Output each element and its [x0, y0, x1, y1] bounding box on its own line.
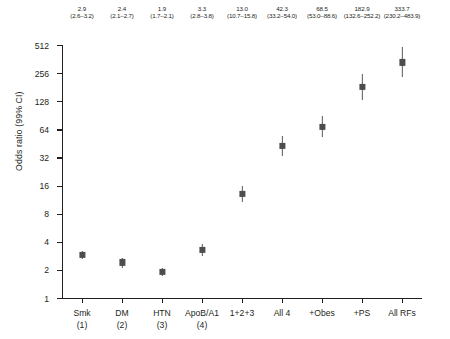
- x-axis-tick-label: 1+2+3: [230, 307, 254, 319]
- y-axis-tick: 4: [57, 242, 62, 243]
- point-annotation: 42.3(33.2–54.0): [267, 6, 297, 20]
- point-annotation-ci: (33.2–54.0): [267, 13, 297, 20]
- x-axis-tick: [202, 298, 203, 303]
- point-annotation-ci: (230.2–483.9): [384, 13, 421, 20]
- point-annotation-ci: (2.6–3.2): [70, 13, 93, 20]
- y-axis-tick: 32: [57, 157, 62, 158]
- point-annotation: 68.5(53.0–88.6): [307, 6, 337, 20]
- data-point[interactable]: [162, 45, 163, 298]
- x-axis-tick-label: All 4: [274, 307, 291, 319]
- data-point[interactable]: [82, 45, 83, 298]
- point-annotation: 3.3(2.8–3.8): [190, 6, 213, 20]
- data-point-marker[interactable]: [399, 59, 405, 65]
- x-axis-tick: [82, 298, 83, 303]
- point-annotation: 13.0(10.7–15.8): [227, 6, 257, 20]
- x-axis-tick: [242, 298, 243, 303]
- y-axis-tick: 1: [57, 298, 62, 299]
- point-annotation-ci: (10.7–15.8): [227, 13, 257, 20]
- point-annotation: 182.9(132.6–252.2): [344, 6, 381, 20]
- data-point[interactable]: [242, 45, 243, 298]
- point-annotation: 2.9(2.6–3.2): [70, 6, 93, 20]
- data-point[interactable]: [402, 45, 403, 298]
- data-point-marker[interactable]: [319, 123, 325, 129]
- y-axis-tick-label: 256: [35, 69, 49, 79]
- data-point-marker[interactable]: [159, 269, 165, 275]
- x-axis-tick-label: All RFs: [388, 307, 416, 319]
- x-axis-tick-label-primary: Smk: [73, 308, 90, 318]
- point-annotation: 2.4(2.1–2.7): [110, 6, 133, 20]
- y-axis-tick: 16: [57, 186, 62, 187]
- x-axis-tick-label: +PS: [354, 307, 370, 319]
- y-axis-tick-label: 16: [39, 181, 49, 191]
- data-point[interactable]: [202, 45, 203, 298]
- point-value-annotations: 2.9(2.6–3.2)2.4(2.1–2.7)1.9(1.7–2.1)3.3(…: [0, 0, 450, 34]
- x-axis-tick-label-primary: ApoB/A1: [185, 308, 219, 318]
- y-axis-tick: 2: [57, 270, 62, 271]
- y-axis-tick-label: 128: [35, 97, 49, 107]
- y-axis-tick: 512: [57, 45, 62, 46]
- x-axis-tick-label-index: (3): [153, 319, 171, 331]
- y-axis-tick: 256: [57, 73, 62, 74]
- x-axis-tick-label-primary: All 4: [274, 308, 291, 318]
- x-axis-tick-label-primary: +Obes: [309, 308, 335, 318]
- x-axis-tick: [402, 298, 403, 303]
- point-annotation-ci: (53.0–88.6): [307, 13, 337, 20]
- x-axis-tick: [122, 298, 123, 303]
- point-annotation: 333.7(230.2–483.9): [384, 6, 421, 20]
- point-annotation-ci: (2.1–2.7): [110, 13, 133, 20]
- data-point-marker[interactable]: [359, 84, 365, 90]
- data-point[interactable]: [362, 45, 363, 298]
- x-axis-tick-label: +Obes: [309, 307, 335, 319]
- x-axis-tick: [362, 298, 363, 303]
- x-axis-tick-label-primary: 1+2+3: [230, 308, 254, 318]
- x-axis-tick-label-primary: DM: [115, 308, 128, 318]
- x-axis-tick: [282, 298, 283, 303]
- x-axis-tick-label: DM(2): [115, 307, 128, 332]
- x-axis-tick-label: ApoB/A1(4): [185, 307, 219, 332]
- x-axis-tick-label-index: (1): [73, 319, 90, 331]
- y-axis-title: Odds ratio (99% CI): [14, 91, 24, 171]
- y-axis-tick-label: 1: [44, 294, 49, 304]
- point-annotation-ci: (132.6–252.2): [344, 13, 381, 20]
- x-axis-tick-label: Smk(1): [73, 307, 90, 332]
- y-axis-tick-label: 2: [44, 265, 49, 275]
- odds-ratio-figure: 2.9(2.6–3.2)2.4(2.1–2.7)1.9(1.7–2.1)3.3(…: [0, 0, 450, 339]
- x-axis-tick-label-index: (4): [185, 319, 219, 331]
- point-annotation-ci: (2.8–3.8): [190, 13, 213, 20]
- data-point-marker[interactable]: [279, 143, 285, 149]
- y-axis-tick-label: 512: [35, 41, 49, 51]
- data-point[interactable]: [282, 45, 283, 298]
- data-point-marker[interactable]: [119, 259, 125, 265]
- x-axis-tick-label-primary: All RFs: [388, 308, 416, 318]
- y-axis-tick: 8: [57, 214, 62, 215]
- y-axis-tick-label: 4: [44, 237, 49, 247]
- data-point-marker[interactable]: [199, 246, 205, 252]
- x-axis-tick-label: HTN(3): [153, 307, 171, 332]
- x-axis-tick: [162, 298, 163, 303]
- data-point[interactable]: [322, 45, 323, 298]
- x-axis-tick: [322, 298, 323, 303]
- y-axis-tick: 128: [57, 101, 62, 102]
- x-axis-tick-label-primary: HTN: [153, 308, 171, 318]
- data-point-marker[interactable]: [239, 191, 245, 197]
- plot-area: 1248163264128256512: [62, 45, 422, 298]
- point-annotation-ci: (1.7–2.1): [150, 13, 173, 20]
- y-axis-tick: 64: [57, 129, 62, 130]
- data-point-marker[interactable]: [79, 252, 85, 258]
- y-axis-tick-label: 32: [39, 153, 49, 163]
- y-axis-tick-label: 64: [39, 125, 49, 135]
- x-axis-tick-label-primary: +PS: [354, 308, 370, 318]
- data-point[interactable]: [122, 45, 123, 298]
- point-annotation: 1.9(1.7–2.1): [150, 6, 173, 20]
- x-axis-tick-label-index: (2): [115, 319, 128, 331]
- y-axis-tick-label: 8: [44, 209, 49, 219]
- x-axis-line: Smk(1)DM(2)HTN(3)ApoB/A1(4)1+2+3All 4+Ob…: [62, 298, 422, 299]
